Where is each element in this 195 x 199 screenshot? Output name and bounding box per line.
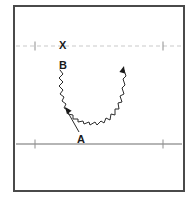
label-b: B [59,59,67,71]
wave-diagram-figure: X B A [0,0,195,199]
figure-container: X B A [0,0,195,199]
canvas-background [0,0,195,199]
label-x: X [59,39,67,51]
label-a: A [77,133,85,145]
